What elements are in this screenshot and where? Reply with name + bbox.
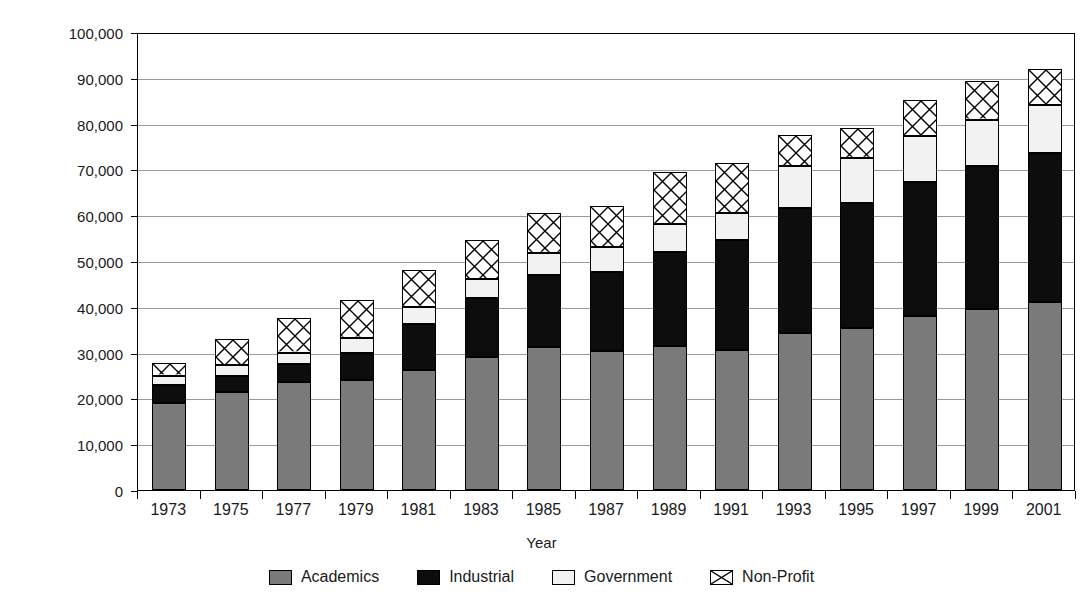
x-axis-tick — [762, 491, 763, 499]
bar-segment-academics[interactable] — [402, 370, 436, 490]
bar-segment-academics[interactable] — [340, 380, 374, 490]
bar-segment-industrial[interactable] — [277, 364, 311, 383]
x-axis-tick-label: 1981 — [387, 501, 449, 519]
bar-segment-academics[interactable] — [215, 392, 249, 490]
bar-group[interactable] — [152, 363, 186, 490]
bar-segment-government[interactable] — [402, 307, 436, 324]
bar-segment-academics[interactable] — [527, 347, 561, 490]
bar-segment-academics[interactable] — [840, 328, 874, 490]
bar-segment-government[interactable] — [715, 213, 749, 240]
bar-segment-government[interactable] — [653, 224, 687, 251]
bar-segment-non-profit[interactable] — [340, 300, 374, 338]
bar-segment-non-profit[interactable] — [778, 135, 812, 166]
bar-segment-industrial[interactable] — [778, 208, 812, 333]
bar-segment-non-profit[interactable] — [965, 81, 999, 119]
bar-segment-academics[interactable] — [778, 333, 812, 490]
bar-segment-non-profit[interactable] — [527, 213, 561, 253]
bar-segment-industrial[interactable] — [903, 182, 937, 316]
bar-segment-government[interactable] — [903, 136, 937, 182]
bar-group[interactable] — [465, 240, 499, 490]
bar-group[interactable] — [715, 163, 749, 490]
bar-group[interactable] — [215, 339, 249, 490]
bar-group[interactable] — [965, 81, 999, 490]
bar-segment-non-profit[interactable] — [277, 318, 311, 352]
x-axis-tick-label: 1991 — [700, 501, 762, 519]
bar-segment-non-profit[interactable] — [590, 206, 624, 247]
legend-item-industrial[interactable]: Industrial — [417, 568, 514, 586]
bar-segment-academics[interactable] — [590, 351, 624, 490]
bar-group[interactable] — [903, 100, 937, 490]
bar-segment-government[interactable] — [1028, 105, 1062, 153]
bar-segment-government[interactable] — [590, 247, 624, 272]
y-axis-tick-label: 40,000 — [77, 300, 123, 315]
bar-segment-academics[interactable] — [1028, 302, 1062, 490]
bar-group[interactable] — [527, 213, 561, 490]
x-axis-tick — [575, 491, 576, 499]
bar-segment-academics[interactable] — [715, 350, 749, 490]
bar-segment-academics[interactable] — [465, 357, 499, 490]
bar-segment-government[interactable] — [840, 158, 874, 204]
bar-group[interactable] — [840, 128, 874, 490]
y-axis-tick-labels: 100,00090,00080,00070,00060,00050,00040,… — [0, 33, 131, 491]
bar-segment-government[interactable] — [965, 120, 999, 166]
bar-segment-industrial[interactable] — [527, 275, 561, 347]
bar-segment-non-profit[interactable] — [1028, 69, 1062, 106]
bar-segment-non-profit[interactable] — [653, 172, 687, 225]
bar-segment-academics[interactable] — [152, 403, 186, 490]
bar-segment-industrial[interactable] — [840, 203, 874, 328]
x-axis-tick — [1012, 491, 1013, 499]
legend-item-non-profit[interactable]: Non-Profit — [710, 568, 814, 586]
bar-segment-non-profit[interactable] — [840, 128, 874, 158]
bar-segment-government[interactable] — [340, 338, 374, 353]
bar-segment-academics[interactable] — [277, 382, 311, 490]
bar-segment-government[interactable] — [778, 166, 812, 208]
x-axis-tick — [387, 491, 388, 499]
bar-segment-government[interactable] — [215, 365, 249, 375]
bar-segment-non-profit[interactable] — [152, 363, 186, 375]
bar-segment-non-profit[interactable] — [465, 240, 499, 279]
x-axis-tick — [262, 491, 263, 499]
bar-segment-industrial[interactable] — [402, 324, 436, 370]
bar-segment-government[interactable] — [527, 253, 561, 275]
bar-segment-academics[interactable] — [653, 346, 687, 490]
bar-group[interactable] — [653, 172, 687, 490]
bar-segment-industrial[interactable] — [965, 166, 999, 309]
x-axis-tick-label: 2001 — [1013, 501, 1075, 519]
legend-item-government[interactable]: Government — [552, 568, 672, 586]
bar-segment-government[interactable] — [152, 376, 186, 385]
bar-segment-academics[interactable] — [903, 316, 937, 490]
x-axis-tick — [825, 491, 826, 499]
bar-segment-non-profit[interactable] — [715, 163, 749, 213]
bar-segment-government[interactable] — [277, 353, 311, 364]
y-axis-tick-label: 80,000 — [77, 117, 123, 132]
bar-segment-industrial[interactable] — [152, 385, 186, 403]
bar-segment-industrial[interactable] — [215, 376, 249, 392]
x-axis-ticks — [137, 491, 1075, 499]
bar-group[interactable] — [1028, 69, 1062, 490]
bar-segment-industrial[interactable] — [1028, 153, 1062, 302]
bar-group[interactable] — [277, 318, 311, 490]
x-axis-title: Year — [0, 534, 1083, 551]
bar-segment-non-profit[interactable] — [215, 339, 249, 366]
bar-segment-industrial[interactable] — [340, 353, 374, 380]
y-axis-tick-label: 100,000 — [69, 26, 123, 41]
legend-label: Industrial — [449, 568, 514, 586]
x-axis-tick — [1075, 491, 1076, 499]
swatch-industrial-icon — [417, 570, 440, 585]
bar-segment-industrial[interactable] — [465, 298, 499, 358]
bar-group[interactable] — [340, 300, 374, 490]
bar-segment-government[interactable] — [465, 279, 499, 297]
bar-group[interactable] — [778, 135, 812, 490]
bar-group[interactable] — [402, 270, 436, 490]
bar-segment-industrial[interactable] — [653, 252, 687, 346]
legend-item-academics[interactable]: Academics — [269, 568, 379, 586]
bar-segment-non-profit[interactable] — [402, 270, 436, 307]
bar-segment-industrial[interactable] — [715, 240, 749, 350]
y-axis-tick-label: 0 — [115, 484, 123, 499]
x-axis-tick-label: 1975 — [200, 501, 262, 519]
bar-segment-academics[interactable] — [965, 309, 999, 490]
bar-segment-industrial[interactable] — [590, 272, 624, 351]
bar-group[interactable] — [590, 199, 624, 490]
bar-segment-non-profit[interactable] — [903, 100, 937, 137]
swatch-government-icon — [552, 570, 575, 585]
